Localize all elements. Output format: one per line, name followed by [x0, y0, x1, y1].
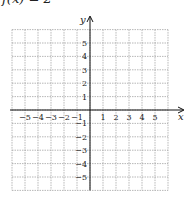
x-tick-label: −4: [32, 113, 44, 122]
x-tick-label: −2: [58, 113, 70, 122]
y-tick-label: −3: [75, 146, 87, 155]
y-tick-label: −4: [75, 160, 87, 169]
x-tick-label: 1: [100, 113, 105, 122]
y-tick-label: 1: [82, 93, 87, 102]
y-tick-label: 5: [82, 39, 87, 48]
y-tick-label: −5: [75, 173, 87, 182]
y-tick-label: 3: [82, 66, 87, 75]
x-axis-label: x: [178, 111, 184, 122]
x-tick-label: −3: [45, 113, 57, 122]
coordinate-plane: xy−5−4−3−2−11234554321−1−2−3−4−5: [0, 0, 189, 197]
x-tick-label: 2: [113, 113, 118, 122]
x-tick-label: −5: [19, 113, 31, 122]
y-tick-label: −2: [75, 133, 87, 142]
x-tick-label: 5: [152, 113, 157, 122]
y-tick-label: −1: [75, 119, 87, 128]
x-tick-label: 3: [126, 113, 131, 122]
x-tick-label: 4: [139, 113, 144, 122]
y-tick-label: 4: [82, 52, 87, 61]
y-axis-label: y: [79, 14, 86, 25]
y-tick-label: 2: [82, 79, 87, 88]
